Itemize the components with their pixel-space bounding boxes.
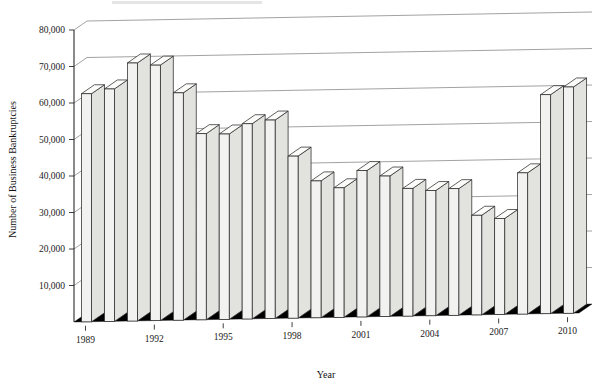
bar-1999: [311, 172, 334, 318]
x-tick-label-1989: 1989: [76, 335, 95, 345]
y-tick-label: 40,000: [39, 171, 65, 181]
bar-2008: [518, 164, 541, 314]
bar-1992: [150, 56, 173, 321]
bar-2002: [380, 167, 403, 317]
bar-2006: [472, 206, 495, 315]
bar-1993: [173, 84, 196, 320]
bar-1997: [265, 111, 288, 319]
bar-1989: [81, 85, 104, 322]
gridline-connector: [74, 58, 87, 67]
bar-2001: [357, 162, 380, 317]
y-tick-label: 50,000: [39, 135, 65, 145]
y-axis: [69, 30, 74, 322]
y-tick-label: 20,000: [39, 244, 65, 254]
scan-artifact: [112, 1, 262, 4]
chart-page: 10,00020,00030,00040,00050,00060,00070,0…: [0, 0, 599, 385]
y-tick-label: 60,000: [39, 98, 65, 108]
bar-group: [81, 54, 586, 322]
y-tick-label: 80,000: [39, 25, 65, 35]
bar-1995: [219, 125, 242, 319]
x-tick-label-2007: 2007: [489, 327, 508, 337]
gridline-connector: [74, 21, 87, 30]
x-tick-label-group: 19891992199519982001200420072010: [76, 317, 577, 345]
y-tick-label: 70,000: [39, 62, 65, 72]
bar-2010: [564, 78, 587, 313]
y-axis-title: Number of Business Bankruptcies: [7, 101, 18, 238]
bar-2005: [449, 180, 472, 316]
bar-1996: [242, 115, 265, 319]
bar-2009: [541, 86, 564, 314]
y-tick-label: 10,000: [39, 281, 65, 291]
x-tick-label-2010: 2010: [558, 326, 577, 336]
bar-2004: [426, 182, 449, 316]
y-tick-label: 30,000: [39, 208, 65, 218]
bar-1990: [104, 80, 127, 322]
bankruptcies-bar-chart: 10,00020,00030,00040,00050,00060,00070,0…: [0, 0, 599, 385]
bar-2000: [334, 179, 357, 318]
x-tick-label-1995: 1995: [214, 332, 233, 342]
x-tick-label-1998: 1998: [283, 331, 302, 341]
x-tick-label-1992: 1992: [145, 334, 164, 344]
bar-2003: [403, 179, 426, 316]
x-tick-label-2004: 2004: [420, 329, 439, 339]
gridline-80000: [87, 12, 592, 21]
bar-1994: [196, 125, 219, 320]
y-tick-label-group: 10,00020,00030,00040,00050,00060,00070,0…: [39, 25, 65, 291]
bar-2007: [495, 210, 518, 315]
bar-1998: [288, 147, 311, 318]
bar-1991: [127, 54, 150, 321]
x-tick-label-2001: 2001: [351, 330, 370, 340]
x-axis-title: Year: [317, 369, 336, 380]
